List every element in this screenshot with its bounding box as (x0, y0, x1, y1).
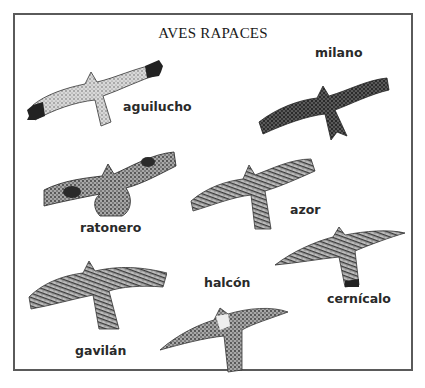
bird-milano-illustration (255, 60, 395, 140)
bird-halcon-illustration (158, 290, 298, 375)
label-halcon: halcón (204, 275, 251, 290)
label-ratonero: ratonero (80, 220, 141, 235)
bird-aguilucho-illustration (25, 50, 165, 130)
bird-ratonero-illustration (30, 140, 180, 225)
bird-cernicalo-illustration (273, 215, 413, 290)
illustration-frame: AVES RAPACES aguilucho milano ratonero a… (13, 13, 413, 371)
bird-gavilan-illustration (27, 257, 167, 337)
label-gavilan: gavilán (75, 343, 126, 358)
page-title: AVES RAPACES (15, 25, 411, 42)
label-cernicalo: cernícalo (327, 291, 391, 306)
label-milano: milano (315, 45, 363, 60)
label-aguilucho: aguilucho (123, 99, 192, 114)
